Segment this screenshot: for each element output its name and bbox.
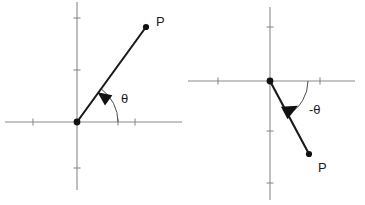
point-p-label: P (318, 160, 327, 175)
positive-angle-diagram: Pθ (5, 2, 182, 190)
ray-line-to-p (270, 81, 309, 154)
angle-label: -θ (309, 102, 321, 117)
point-p-dot (306, 151, 312, 157)
figure-canvas: PθP-θ (0, 0, 365, 205)
angle-diagram-figure: PθP-θ (0, 0, 365, 205)
ray-line-to-p (77, 27, 146, 122)
direction-arrow-icon (281, 100, 301, 120)
origin-dot (267, 78, 274, 85)
point-p-dot (143, 24, 149, 30)
origin-dot (74, 119, 81, 126)
angle-label: θ (121, 91, 128, 106)
point-p-label: P (156, 14, 165, 29)
negative-angle-diagram: P-θ (188, 7, 355, 200)
